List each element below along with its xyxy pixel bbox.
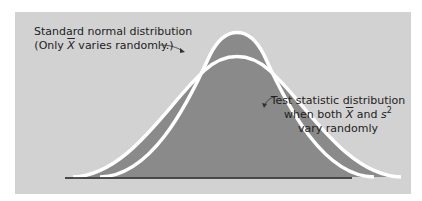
test-statistic-label: Test statistic distribution when both X … <box>268 94 408 136</box>
standard-normal-label: Standard normal distribution (Only X var… <box>34 25 174 53</box>
line2-prefix: when both <box>284 108 346 121</box>
line2-prefix: (Only <box>34 39 67 52</box>
test-statistic-label-line2: when both X and s2 <box>268 108 408 122</box>
standard-normal-label-line2: (Only X varies randomly.) <box>34 39 174 53</box>
arrowhead-standard-normal <box>180 48 185 53</box>
xbar-symbol: X <box>67 39 75 52</box>
standard-normal-label-line1: Standard normal distribution <box>34 25 174 39</box>
line2-suffix: varies randomly.) <box>75 39 174 52</box>
line2-mid: and <box>353 108 381 121</box>
test-statistic-label-line3: vary randomly <box>268 122 408 136</box>
superscript-2: 2 <box>387 106 392 115</box>
